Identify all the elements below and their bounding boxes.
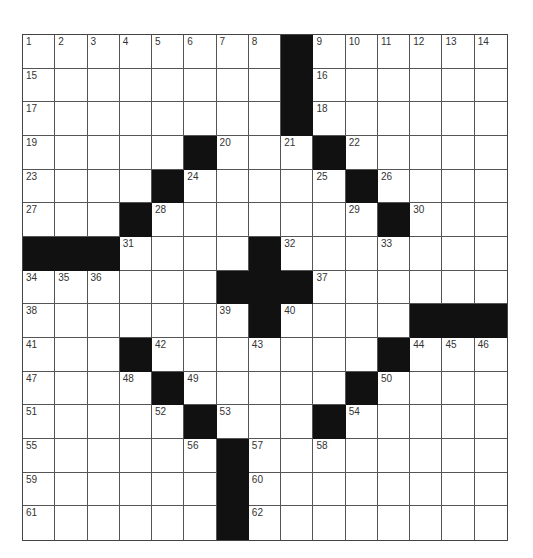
grid-cell[interactable]	[88, 439, 120, 473]
grid-cell[interactable]	[346, 237, 378, 271]
grid-cell[interactable]	[55, 69, 87, 103]
grid-cell[interactable]: 48	[120, 372, 152, 406]
grid-cell[interactable]	[313, 304, 345, 338]
grid-cell[interactable]	[442, 405, 474, 439]
grid-cell[interactable]	[88, 69, 120, 103]
grid-cell[interactable]	[281, 203, 313, 237]
grid-cell[interactable]	[152, 69, 184, 103]
grid-cell[interactable]	[313, 338, 345, 372]
grid-cell[interactable]	[55, 102, 87, 136]
grid-cell[interactable]	[378, 439, 410, 473]
grid-cell[interactable]	[184, 237, 216, 271]
grid-cell[interactable]: 11	[378, 35, 410, 69]
grid-cell[interactable]: 46	[475, 338, 507, 372]
grid-cell[interactable]: 33	[378, 237, 410, 271]
grid-cell[interactable]	[410, 102, 442, 136]
grid-cell[interactable]	[281, 170, 313, 204]
grid-cell[interactable]: 51	[23, 405, 55, 439]
grid-cell[interactable]: 61	[23, 506, 55, 540]
grid-cell[interactable]	[55, 473, 87, 507]
grid-cell[interactable]	[152, 136, 184, 170]
grid-cell[interactable]	[55, 405, 87, 439]
grid-cell[interactable]	[378, 69, 410, 103]
grid-cell[interactable]: 44	[410, 338, 442, 372]
grid-cell[interactable]	[475, 372, 507, 406]
grid-cell[interactable]: 18	[313, 102, 345, 136]
grid-cell[interactable]	[184, 102, 216, 136]
grid-cell[interactable]	[442, 237, 474, 271]
grid-cell[interactable]: 30	[410, 203, 442, 237]
grid-cell[interactable]	[249, 102, 281, 136]
grid-cell[interactable]: 23	[23, 170, 55, 204]
grid-cell[interactable]	[313, 506, 345, 540]
grid-cell[interactable]	[475, 506, 507, 540]
grid-cell[interactable]	[475, 170, 507, 204]
grid-cell[interactable]	[410, 271, 442, 305]
grid-cell[interactable]	[249, 170, 281, 204]
grid-cell[interactable]	[120, 170, 152, 204]
grid-cell[interactable]	[346, 506, 378, 540]
grid-cell[interactable]	[475, 136, 507, 170]
grid-cell[interactable]	[88, 136, 120, 170]
grid-cell[interactable]: 43	[249, 338, 281, 372]
grid-cell[interactable]	[346, 338, 378, 372]
grid-cell[interactable]	[120, 69, 152, 103]
grid-cell[interactable]	[442, 136, 474, 170]
grid-cell[interactable]	[475, 237, 507, 271]
grid-cell[interactable]	[120, 473, 152, 507]
grid-cell[interactable]	[55, 170, 87, 204]
grid-cell[interactable]	[217, 338, 249, 372]
grid-cell[interactable]: 25	[313, 170, 345, 204]
grid-cell[interactable]	[442, 372, 474, 406]
grid-cell[interactable]: 41	[23, 338, 55, 372]
grid-cell[interactable]	[217, 203, 249, 237]
grid-cell[interactable]: 16	[313, 69, 345, 103]
grid-cell[interactable]	[378, 405, 410, 439]
grid-cell[interactable]	[184, 69, 216, 103]
grid-cell[interactable]	[249, 203, 281, 237]
grid-cell[interactable]	[152, 439, 184, 473]
grid-cell[interactable]	[120, 271, 152, 305]
grid-cell[interactable]	[346, 271, 378, 305]
grid-cell[interactable]	[281, 372, 313, 406]
grid-cell[interactable]	[55, 506, 87, 540]
grid-cell[interactable]: 53	[217, 405, 249, 439]
grid-cell[interactable]	[152, 304, 184, 338]
grid-cell[interactable]: 8	[249, 35, 281, 69]
grid-cell[interactable]	[313, 372, 345, 406]
grid-cell[interactable]	[410, 439, 442, 473]
grid-cell[interactable]: 20	[217, 136, 249, 170]
grid-cell[interactable]	[442, 473, 474, 507]
grid-cell[interactable]: 21	[281, 136, 313, 170]
grid-cell[interactable]	[88, 405, 120, 439]
grid-cell[interactable]	[442, 439, 474, 473]
grid-cell[interactable]: 34	[23, 271, 55, 305]
grid-cell[interactable]: 39	[217, 304, 249, 338]
grid-cell[interactable]	[346, 439, 378, 473]
grid-cell[interactable]: 14	[475, 35, 507, 69]
grid-cell[interactable]	[88, 304, 120, 338]
grid-cell[interactable]	[249, 372, 281, 406]
grid-cell[interactable]	[442, 203, 474, 237]
grid-cell[interactable]	[55, 136, 87, 170]
grid-cell[interactable]	[249, 136, 281, 170]
grid-cell[interactable]: 29	[346, 203, 378, 237]
grid-cell[interactable]	[249, 69, 281, 103]
grid-cell[interactable]	[281, 506, 313, 540]
grid-cell[interactable]: 6	[184, 35, 216, 69]
grid-cell[interactable]	[475, 203, 507, 237]
grid-cell[interactable]: 57	[249, 439, 281, 473]
grid-cell[interactable]	[378, 136, 410, 170]
grid-cell[interactable]	[378, 271, 410, 305]
grid-cell[interactable]: 58	[313, 439, 345, 473]
grid-cell[interactable]	[313, 203, 345, 237]
grid-cell[interactable]	[88, 506, 120, 540]
grid-cell[interactable]	[475, 405, 507, 439]
grid-cell[interactable]	[55, 372, 87, 406]
grid-cell[interactable]: 28	[152, 203, 184, 237]
grid-cell[interactable]	[217, 69, 249, 103]
grid-cell[interactable]	[346, 102, 378, 136]
grid-cell[interactable]	[217, 102, 249, 136]
grid-cell[interactable]	[313, 473, 345, 507]
grid-cell[interactable]: 36	[88, 271, 120, 305]
